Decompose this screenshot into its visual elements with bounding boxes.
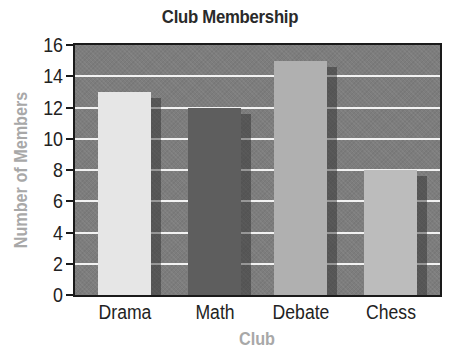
x-axis-title: Club xyxy=(23,329,437,350)
y-tick-label: 0 xyxy=(12,284,63,305)
y-tick-label: 10 xyxy=(12,128,63,149)
y-tick-label: 8 xyxy=(12,159,63,180)
y-tick-label: 12 xyxy=(12,97,63,118)
y-tick xyxy=(66,138,73,140)
y-tick xyxy=(66,232,73,234)
y-tick xyxy=(66,169,73,171)
x-tick-label: Chess xyxy=(347,301,435,324)
chart-title: Club Membership xyxy=(28,6,433,28)
bar-debate xyxy=(274,61,327,295)
x-tick-label: Math xyxy=(171,301,259,324)
y-tick xyxy=(66,75,73,77)
y-tick-label: 4 xyxy=(12,222,63,243)
plot-area xyxy=(73,43,442,297)
y-tick-label: 14 xyxy=(12,65,63,86)
bar-math xyxy=(188,108,241,296)
bar-shadow xyxy=(151,98,161,295)
y-tick-label: 2 xyxy=(12,253,63,274)
y-tick xyxy=(66,263,73,265)
y-tick-label: 6 xyxy=(12,190,63,211)
y-tick-label: 16 xyxy=(12,34,63,55)
y-tick xyxy=(66,44,73,46)
bar-shadow xyxy=(327,67,337,295)
x-tick-label: Drama xyxy=(81,301,169,324)
y-tick xyxy=(66,107,73,109)
y-tick xyxy=(66,200,73,202)
x-tick-label: Debate xyxy=(257,301,345,324)
bar-chess xyxy=(364,170,417,295)
gridline xyxy=(75,75,440,77)
bar-shadow xyxy=(417,176,427,295)
bar-drama xyxy=(98,92,151,295)
bar-shadow xyxy=(241,114,251,296)
y-tick xyxy=(66,294,73,296)
